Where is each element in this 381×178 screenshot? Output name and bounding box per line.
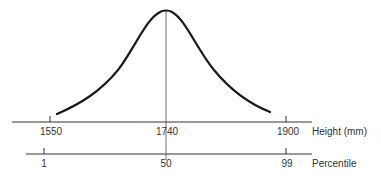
tick-label-1550: 1550 [40, 126, 62, 138]
tick-label-1900: 1900 [277, 126, 299, 138]
height-axis-label: Height (mm) [312, 126, 367, 138]
distribution-chart [0, 0, 381, 178]
tick-label-p1: 1 [41, 158, 47, 170]
tick-label-p50: 50 [160, 158, 171, 170]
bell-curve [57, 11, 270, 115]
tick-label-1740: 1740 [156, 126, 178, 138]
tick-label-p99: 99 [281, 158, 292, 170]
percentile-axis-label: Percentile [312, 158, 356, 170]
